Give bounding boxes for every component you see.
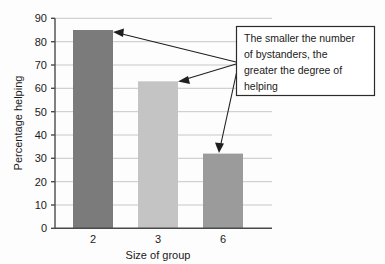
bar-group-2 <box>73 30 113 228</box>
x-axis-title: Size of group <box>126 249 191 261</box>
y-tick-label-30: 30 <box>35 152 47 164</box>
y-tick-label-0: 0 <box>41 222 47 234</box>
bar-group-3 <box>138 81 178 228</box>
y-axis-title: Percentage helping <box>12 76 24 171</box>
bar-chart-figure: 90 80 70 60 50 40 30 20 10 0 2 3 6 Size … <box>0 0 385 264</box>
y-tick-label-50: 50 <box>35 106 47 118</box>
y-tick-label-10: 10 <box>35 199 47 211</box>
y-tick-label-70: 70 <box>35 59 47 71</box>
y-tick-label-20: 20 <box>35 176 47 188</box>
bar-group-6 <box>203 154 243 229</box>
x-tick-label-6: 6 <box>220 233 226 245</box>
callout-line-3: greater the degree of <box>244 64 342 76</box>
x-tick-label-2: 2 <box>90 233 96 245</box>
callout-line-4: helping <box>244 80 278 92</box>
y-tick-label-90: 90 <box>35 12 47 24</box>
y-tick-label-40: 40 <box>35 129 47 141</box>
callout-line-2: of bystanders, the <box>244 48 328 60</box>
y-tick-label-80: 80 <box>35 36 47 48</box>
callout-line-1: The smaller the number <box>244 32 355 44</box>
chart-canvas: 90 80 70 60 50 40 30 20 10 0 2 3 6 Size … <box>0 0 385 264</box>
y-tick-label-60: 60 <box>35 82 47 94</box>
x-tick-label-3: 3 <box>155 233 161 245</box>
